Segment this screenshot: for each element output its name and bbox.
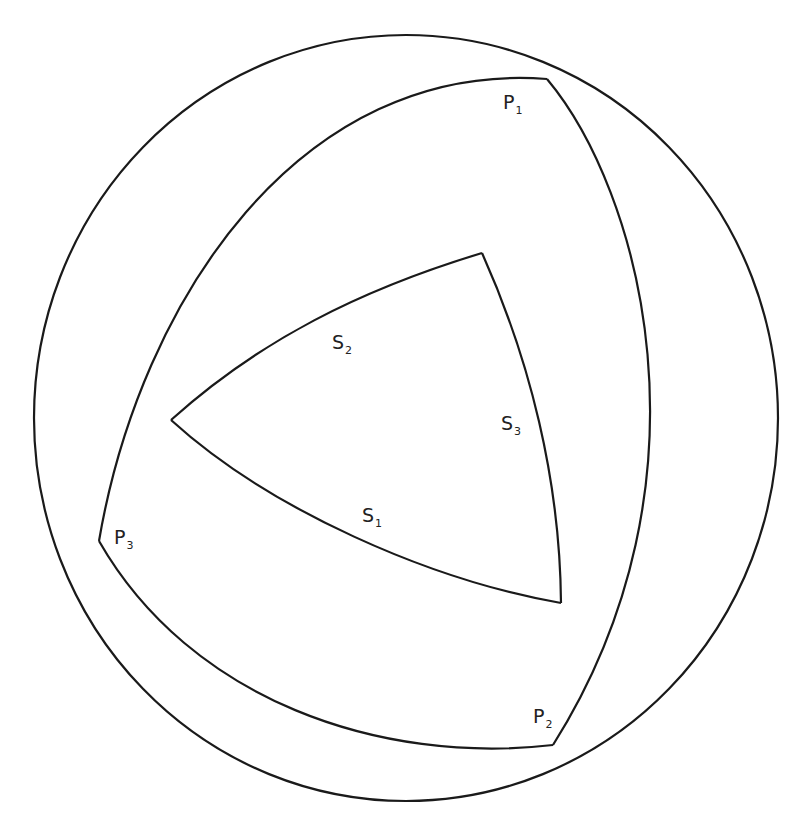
- sphere-diagram: [0, 0, 799, 830]
- label-p3: P3: [114, 528, 133, 551]
- inner-triangle-side-s3: [482, 253, 561, 603]
- label-s3-sub: 3: [514, 425, 521, 438]
- label-s1-main: S: [362, 504, 374, 526]
- label-p3-main: P: [114, 526, 125, 548]
- label-p3-sub: 3: [126, 539, 133, 552]
- label-s1-sub: 1: [375, 517, 382, 530]
- label-s1: S1: [362, 506, 382, 529]
- outer-triangle-side-p1-p2: [547, 79, 650, 745]
- label-s3: S3: [501, 414, 521, 437]
- label-s2-sub: 2: [345, 344, 352, 357]
- outer-triangle-side-p2-p3: [99, 541, 553, 749]
- label-p1-main: P: [503, 91, 514, 113]
- label-p2-main: P: [533, 705, 544, 727]
- label-p1-sub: 1: [515, 104, 522, 117]
- label-p2: P2: [533, 707, 552, 730]
- sphere-outline: [34, 35, 778, 801]
- label-s2-main: S: [332, 331, 344, 353]
- label-s2: S2: [332, 333, 352, 356]
- label-s3-main: S: [501, 412, 513, 434]
- label-p2-sub: 2: [545, 718, 552, 731]
- label-p1: P1: [503, 93, 522, 116]
- inner-triangle-side-s2: [171, 253, 482, 420]
- outer-triangle-side-p3-p1: [99, 78, 547, 541]
